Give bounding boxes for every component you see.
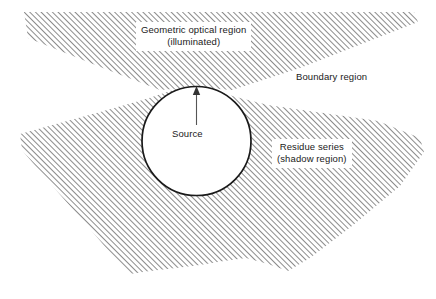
label-residue-line-2: (shadow region) [277,153,347,165]
label-boundary-region: Boundary region [296,71,367,83]
label-source-text: Source [172,128,203,140]
label-geometric-optical-region: Geometric optical region (illuminated) [136,22,251,51]
label-boundary-text: Boundary region [296,71,367,83]
label-source: Source [172,128,203,140]
label-residue-line-1: Residue series [277,141,347,153]
label-geometric-line-1: Geometric optical region [141,24,246,36]
label-geometric-line-2: (illuminated) [141,36,246,48]
figure-container: Geometric optical region (illuminated) B… [0,0,436,299]
label-residue-series: Residue series (shadow region) [272,139,352,168]
